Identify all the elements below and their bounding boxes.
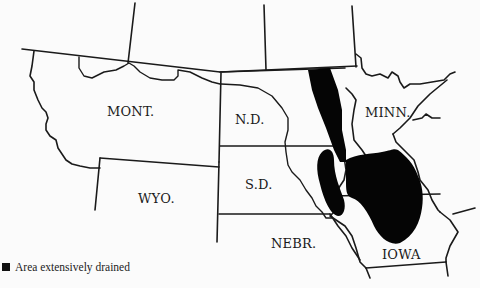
wyo-west-border (95, 158, 100, 210)
map-canvas: MONT. N.D. MINN. S.D. WYO. NEBR. IOWA Ar… (0, 0, 480, 288)
province-line-2 (264, 5, 266, 70)
map-legend: Area extensively drained (2, 261, 130, 273)
label-nebraska: NEBR. (271, 236, 316, 251)
label-wyoming: WYO. (138, 191, 175, 206)
wyo-east-border (217, 162, 219, 242)
label-north-dakota: N.D. (235, 112, 265, 127)
label-minnesota: MINN. (365, 105, 411, 120)
drained-area-red-river (308, 68, 346, 162)
iowa-south-border (366, 262, 446, 268)
illinois-line (453, 208, 475, 214)
iowa-east-border (440, 212, 458, 262)
missouri-tick-2 (446, 262, 448, 276)
states-map (0, 0, 480, 288)
missouri-river-montana (79, 57, 220, 84)
province-line-3 (352, 6, 356, 67)
mont-nd-border (219, 73, 221, 162)
wisconsin-border (413, 114, 440, 120)
legend-label-drained: Area extensively drained (15, 261, 130, 273)
label-south-dakota: S.D. (245, 177, 272, 192)
missouri-river-dakotas (221, 84, 332, 218)
black-square-icon (2, 263, 10, 271)
missouri-tick-1 (366, 268, 370, 278)
drained-area-iowa (346, 149, 423, 243)
minn-north-border (356, 54, 455, 88)
province-line-1 (128, 3, 135, 63)
minn-inner-line (346, 88, 366, 156)
montana-west-border (30, 51, 100, 168)
nebr-east-border (330, 214, 360, 260)
label-iowa: IOWA (382, 247, 421, 262)
mont-wyo-border (100, 158, 219, 167)
label-montana: MONT. (107, 104, 154, 119)
